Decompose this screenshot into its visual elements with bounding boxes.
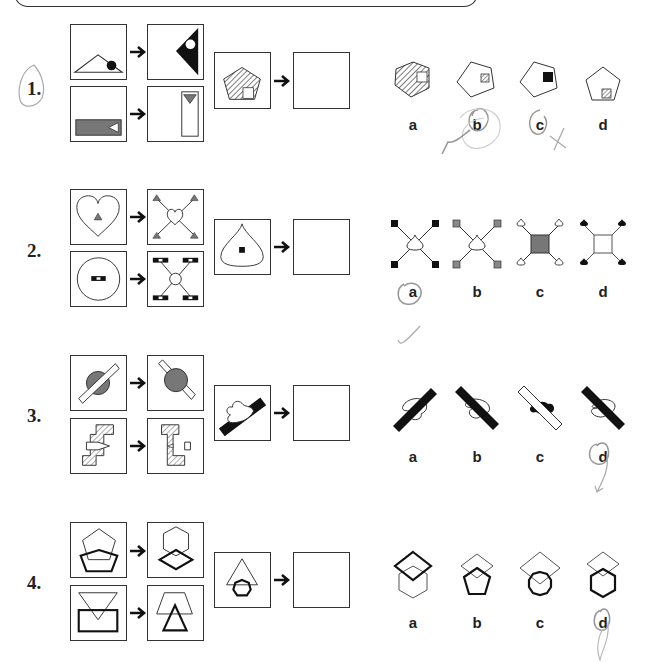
option-b-figure[interactable]: [451, 218, 503, 270]
example-2-target: [147, 86, 204, 142]
arrow-right-icon: [129, 376, 147, 390]
option-d-figure[interactable]: [577, 52, 629, 104]
circle-with-four-bars-icon: [148, 252, 203, 306]
arrow-right-icon: [273, 406, 291, 420]
mirrored-hatched-shape-icon: [148, 419, 203, 473]
example-1-target: [147, 189, 204, 245]
option-a-figure[interactable]: [389, 382, 441, 434]
query-figure: [214, 385, 271, 441]
thin-hexagon-over-thick-diamond-icon: [148, 523, 203, 577]
arrow-right-icon: [129, 107, 147, 121]
hatched-pentagon-icon: [215, 53, 270, 108]
problem-number: 4.: [27, 572, 41, 594]
option-c-label[interactable]: c: [530, 283, 550, 300]
option-b-figure[interactable]: [451, 382, 503, 434]
example-1-target: [147, 24, 204, 80]
example-2-source: [70, 251, 127, 307]
example-1-source: [70, 24, 127, 80]
hatched-shape-with-arrow-icon: [71, 419, 126, 473]
drop-with-square-icon: [215, 220, 270, 274]
example-1-source: [70, 522, 127, 578]
example-2-source: [70, 418, 127, 474]
answer-box[interactable]: [293, 385, 350, 441]
arrow-right-icon: [129, 272, 147, 286]
option-d-label[interactable]: d: [593, 614, 613, 631]
option-a-figure[interactable]: [389, 52, 441, 104]
example-1-source: [70, 355, 127, 411]
arrow-right-icon: [129, 439, 147, 453]
answer-box[interactable]: [293, 219, 350, 275]
arrow-right-icon: [129, 45, 147, 59]
option-d-label[interactable]: d: [593, 448, 613, 465]
thin-triangle-over-thick-rectangle-icon: [71, 586, 126, 640]
option-a-figure[interactable]: [389, 548, 441, 600]
heart-with-four-triangles-icon: [148, 190, 203, 244]
option-a-figure[interactable]: [389, 218, 441, 270]
query-figure: [214, 219, 271, 275]
example-1-target: [147, 522, 204, 578]
option-b-figure[interactable]: [451, 548, 503, 600]
circle-in-front-of-bar-icon: [148, 356, 203, 410]
option-b-label[interactable]: b: [467, 448, 487, 465]
arrow-right-icon: [129, 210, 147, 224]
example-2-source: [70, 86, 127, 142]
option-c-label[interactable]: c: [530, 116, 550, 133]
arrow-right-icon: [273, 74, 291, 88]
circle-behind-bar-icon: [71, 356, 126, 410]
query-figure: [214, 552, 271, 608]
thin-trapezoid-over-thick-triangle-icon: [148, 586, 203, 640]
arrow-right-icon: [129, 544, 147, 558]
option-d-figure[interactable]: [577, 548, 629, 600]
option-c-figure[interactable]: [514, 548, 566, 600]
option-a-label[interactable]: a: [403, 283, 423, 300]
top-frame-border: [14, 0, 478, 7]
option-d-label[interactable]: d: [593, 116, 613, 133]
example-2-target: [147, 251, 204, 307]
option-c-figure[interactable]: [514, 52, 566, 104]
thin-pentagon-over-thick-pentagon-icon: [71, 523, 126, 577]
arrow-right-icon: [129, 606, 147, 620]
example-2-target: [147, 585, 204, 641]
option-a-label[interactable]: a: [403, 614, 423, 631]
thin-triangle-over-thick-heptagon-icon: [215, 553, 270, 607]
option-a-label[interactable]: a: [403, 448, 423, 465]
query-figure: [214, 52, 271, 109]
black-triangle-with-white-dot-icon: [148, 25, 203, 79]
vertical-rectangle-with-gray-triangle-icon: [148, 87, 203, 141]
option-b-label[interactable]: b: [467, 116, 487, 133]
example-2-target: [147, 418, 204, 474]
arrow-right-icon: [273, 573, 291, 587]
option-b-label[interactable]: b: [467, 283, 487, 300]
option-b-figure[interactable]: [451, 52, 503, 104]
option-c-label[interactable]: c: [530, 614, 550, 631]
option-c-figure[interactable]: [514, 218, 566, 270]
option-b-label[interactable]: b: [467, 614, 487, 631]
option-d-label[interactable]: d: [593, 283, 613, 300]
problem-number: 3.: [27, 405, 41, 427]
option-d-figure[interactable]: [577, 382, 629, 434]
heart-in-front-of-black-bar-icon: [215, 386, 270, 440]
problem-number: 1.: [27, 78, 41, 100]
example-1-target: [147, 355, 204, 411]
gray-rectangle-with-triangle-icon: [71, 87, 126, 141]
example-2-source: [70, 585, 127, 641]
circle-with-bar-icon: [71, 252, 126, 306]
option-c-figure[interactable]: [514, 382, 566, 434]
arrow-right-icon: [273, 240, 291, 254]
heart-with-triangle-icon: [71, 190, 126, 244]
option-c-label[interactable]: c: [530, 448, 550, 465]
example-1-source: [70, 189, 127, 245]
triangle-with-dot-icon: [71, 25, 126, 79]
answer-box[interactable]: [293, 52, 350, 109]
problem-number: 2.: [27, 240, 41, 262]
option-d-figure[interactable]: [577, 218, 629, 270]
answer-box[interactable]: [293, 552, 350, 608]
option-a-label[interactable]: a: [403, 116, 423, 133]
